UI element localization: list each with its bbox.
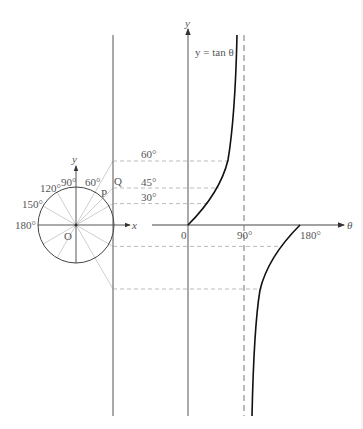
theta-axis-label: θ xyxy=(347,219,353,231)
tick-label-90: 90° xyxy=(237,229,252,241)
angle-label-180: 180° xyxy=(15,219,36,231)
point-p-label: P xyxy=(101,187,107,199)
circle-y-label: y xyxy=(71,153,77,165)
tan-curve-branch-1 xyxy=(188,35,237,225)
curve-label: y = tan θ xyxy=(195,46,234,58)
tick-label-0: 0 xyxy=(181,229,187,241)
projection-label-60: 60° xyxy=(141,148,156,160)
angle-label-60: 60° xyxy=(85,176,100,188)
angle-label-120: 120° xyxy=(40,182,61,194)
graph-y-label: y xyxy=(184,17,190,29)
tick-label-180: 180° xyxy=(300,229,321,241)
tan-curve-branch-2 xyxy=(252,225,300,416)
circle-x-label: x xyxy=(131,219,137,231)
projection-label-30: 30° xyxy=(141,191,156,203)
origin-dot xyxy=(75,224,78,227)
tan-diagram: y x 90° 60° 120° 150° 180° O P Q 60° 45°… xyxy=(0,0,363,429)
projection-label-45: 45° xyxy=(141,176,156,188)
angle-label-150: 150° xyxy=(22,198,43,210)
point-q-label: Q xyxy=(114,175,122,187)
origin-label: O xyxy=(64,230,72,242)
angle-label-90: 90° xyxy=(61,176,76,188)
